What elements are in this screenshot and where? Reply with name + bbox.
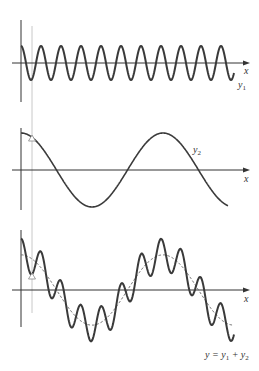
figure-canvas [0,0,259,371]
x-axis-arrow-icon [243,288,250,293]
panel-y1 [12,20,250,102]
y1-label: y1 [238,80,246,92]
sum-label: y = y1 + y2 [205,350,249,362]
y2-label: y2 [193,145,201,157]
x-axis-label: x [244,174,248,184]
x-axis-label: x [244,66,248,76]
panel-sum [12,230,250,341]
superposition-figure: x y1 x y2 x y = y1 + y2 [0,0,259,371]
x-axis-arrow-icon [243,168,250,173]
x-axis-label: x [244,294,248,304]
panel-y2 [12,128,250,210]
